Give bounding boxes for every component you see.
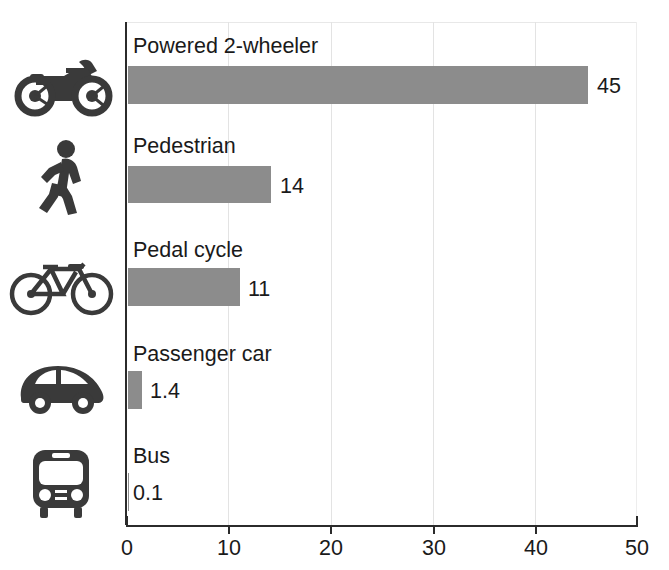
x-axis-line <box>126 525 638 527</box>
bar-value-pedestrian: 14 <box>280 176 304 198</box>
bar-chart-figure: Powered 2-wheeler 45 Pedestrian 14 Pedal… <box>0 0 669 570</box>
bar-pedestrian <box>128 166 271 203</box>
bar-bus <box>128 473 129 511</box>
plot-top-border <box>126 22 637 23</box>
x-tick-label-50: 50 <box>625 538 649 560</box>
motorcycle-icon <box>0 40 122 130</box>
x-tick-0 <box>126 516 128 526</box>
x-tick-label-40: 40 <box>524 538 548 560</box>
category-icon-column <box>0 0 126 525</box>
bar-value-pedal-cycle: 11 <box>248 279 270 301</box>
gridline-50 <box>636 22 637 525</box>
bar-label-bus: Bus <box>133 446 170 468</box>
car-icon <box>0 348 122 426</box>
x-tick-label-10: 10 <box>217 538 241 560</box>
bar-label-passenger-car: Passenger car <box>133 344 272 366</box>
bar-value-bus: 0.1 <box>133 483 163 505</box>
x-tick-50 <box>636 516 638 526</box>
bus-icon <box>0 440 122 525</box>
pedestrian-icon <box>0 136 122 220</box>
bar-label-pedestrian: Pedestrian <box>133 136 236 158</box>
x-tick-label-20: 20 <box>319 538 343 560</box>
bar-value-passenger-car: 1.4 <box>150 381 180 403</box>
bar-pedal-cycle <box>128 268 240 306</box>
bar-passenger-car <box>128 371 142 409</box>
x-tick-10 <box>228 525 230 534</box>
y-axis-line <box>125 22 127 525</box>
bar-label-powered-2-wheeler: Powered 2-wheeler <box>133 36 318 58</box>
x-tick-label-0: 0 <box>121 538 133 560</box>
bar-label-pedal-cycle: Pedal cycle <box>133 240 243 262</box>
bicycle-icon <box>0 240 122 326</box>
x-tick-30 <box>433 525 435 534</box>
x-tick-20 <box>330 525 332 534</box>
bar-value-powered-2-wheeler: 45 <box>597 76 621 98</box>
x-tick-40 <box>535 525 537 534</box>
x-tick-label-30: 30 <box>422 538 446 560</box>
bar-powered-2-wheeler <box>128 66 588 104</box>
